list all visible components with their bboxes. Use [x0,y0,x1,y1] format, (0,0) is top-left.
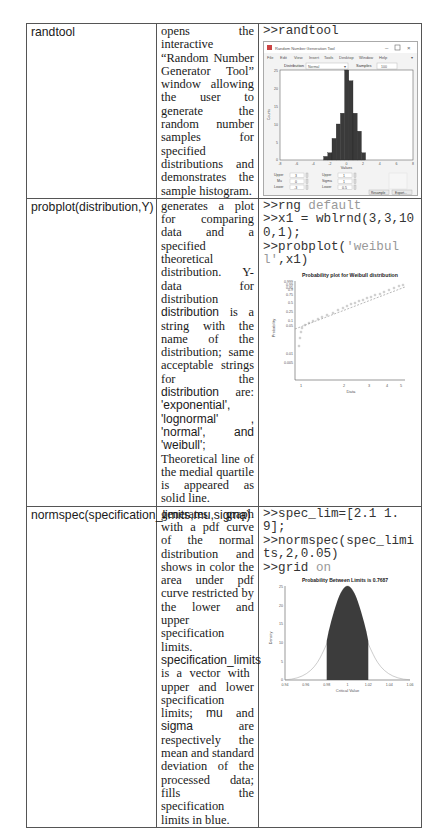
svg-text:-2: -2 [328,162,331,166]
function-name: normspec(specification_limits,mu,sigma) [27,506,157,827]
svg-text:15: 15 [279,622,283,626]
svg-text:25: 25 [274,69,278,73]
svg-text:10: 10 [274,123,278,127]
svg-text:0.98: 0.98 [323,683,330,687]
code-line: >>probplot('weibull',x1) [263,241,417,268]
shaded-area [327,586,369,680]
svg-text:1: 1 [343,173,345,177]
svg-text:0.94: 0.94 [282,683,289,687]
svg-text:5: 5 [400,384,402,388]
svg-text:1.04: 1.04 [386,683,393,687]
svg-text:0.05: 0.05 [286,324,293,328]
svg-text:0.5: 0.5 [342,185,347,189]
code-line: >>normspec(spec_limits,2,0.05) [263,535,417,562]
svg-text:20: 20 [274,87,278,91]
upper-input[interactable] [290,173,304,178]
svg-text:4: 4 [379,162,381,166]
svg-text:-4: -4 [312,162,315,166]
table-row: probplot(distribution,Y) generates a plo… [27,198,422,506]
svg-text:1.06: 1.06 [407,683,414,687]
svg-text:1.02: 1.02 [365,683,372,687]
normspec-plot: Probability Between Limits is 0.7687 252… [263,576,418,696]
example-cell: >>spec_lim=[2.1 1.9]; >>normspec(spec_li… [259,506,422,827]
svg-text:3: 3 [368,384,370,388]
chart-title: Probability Between Limits is 0.7687 [302,577,388,583]
y-axis-label: Density [269,631,273,644]
svg-text:0.9: 0.9 [288,288,293,292]
code-line: >>spec_lim=[2.1 1.9]; [263,508,417,535]
svg-text:Upper: Upper [322,173,332,177]
window-title: Random Number Generation Tool [275,46,335,51]
x-axis-label: Values [341,166,352,170]
svg-text:Sigma: Sigma [322,179,332,183]
function-table: randtool opens the interactive “Random N… [26,23,422,828]
svg-text:2: 2 [343,384,345,388]
svg-text:0: 0 [295,179,297,183]
svg-text:▾: ▾ [411,55,413,60]
svg-text:Lower: Lower [274,185,284,189]
svg-text:-3: -3 [294,185,297,189]
table-row: randtool opens the interactive “Random N… [27,24,422,199]
menu-help[interactable]: Help [379,55,388,60]
svg-text:5: 5 [276,141,278,145]
svg-text:0: 0 [281,678,283,682]
svg-text:-8: -8 [278,162,281,166]
svg-text:0.01: 0.01 [286,352,293,356]
x-axis-label: Critical Value [336,688,360,693]
code-line: >>rng default [263,200,417,214]
svg-text:15: 15 [274,105,278,109]
svg-text:8: 8 [412,162,414,166]
mu-input[interactable] [290,179,304,184]
svg-text:2: 2 [362,162,364,166]
y-axis-label: Probability [271,318,276,337]
svg-text:-6: -6 [295,162,298,166]
svg-text:0.5: 0.5 [288,301,293,305]
menu-view[interactable]: View [294,55,303,60]
svg-text:1: 1 [347,683,349,687]
svg-text:3: 3 [295,173,297,177]
svg-text:0.25: 0.25 [286,310,293,314]
code-line: >>x1 = wblrnd(3,3,100,1); [263,213,417,240]
function-description: generates graph with a pdf curve of the … [157,506,259,827]
x-axis-label: Data [347,389,357,394]
samples-label: Samples [356,63,372,68]
mu-upper-input[interactable] [338,173,352,178]
randtool-window-graphic: Random Number Generation Tool – × File E… [264,42,417,195]
menu-edit[interactable]: Edit [280,55,288,60]
chevron-down-icon: ▾ [344,64,346,68]
menu-window[interactable]: Window [359,55,373,60]
sigma-input[interactable] [338,179,352,184]
example-cell: >>randtool Random Number Generation Tool… [259,24,422,199]
function-description: opens the interactive “Random Number Gen… [157,24,259,199]
svg-text:100: 100 [381,64,387,68]
randtool-window: Random Number Generation Tool – × File E… [263,41,418,196]
reference-line [295,287,405,329]
menu-file[interactable]: File [267,55,274,60]
function-description: generates a plot for comparing data and … [157,198,259,506]
menu-insert[interactable]: Insert [309,55,320,60]
svg-text:1: 1 [343,179,345,183]
svg-text:Export...: Export... [395,190,407,194]
svg-text:25: 25 [279,585,283,589]
table-row: normspec(specification_limits,mu,sigma) … [27,506,422,827]
example-cell: >>rng default >>x1 = wblrnd(3,3,100,1); … [259,198,422,506]
menu-desktop[interactable]: Desktop [339,55,354,60]
svg-text:10: 10 [279,641,283,645]
function-name: randtool [27,24,157,199]
function-name: probplot(distribution,Y) [27,198,157,506]
samples-input[interactable] [377,63,397,69]
svg-text:Upper: Upper [274,173,284,177]
close-icon[interactable]: × [407,45,411,51]
menu-bar: File Edit View Insert Tools Desktop Wind… [267,55,413,60]
svg-text:20: 20 [279,604,283,608]
code-line: >>grid on [263,562,417,576]
svg-text:0.75: 0.75 [286,293,293,297]
svg-text:0.1: 0.1 [288,319,293,323]
svg-text:Lower: Lower [322,185,332,189]
svg-text:5: 5 [281,660,283,664]
parameter-controls: Upper 3 Upper 1 Mu 0 Sigma 1 Lower [274,173,407,190]
svg-text:Resample: Resample [371,190,386,194]
menu-tools[interactable]: Tools [324,55,333,60]
svg-text:0.96: 0.96 [302,683,309,687]
probability-plot: Probability plot for Weibull distributio… [263,268,418,403]
